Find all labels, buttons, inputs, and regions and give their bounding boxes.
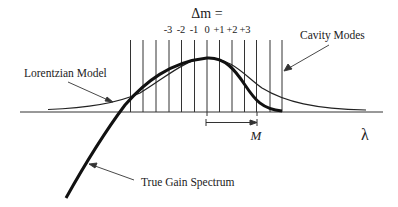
cavity-modes-label: Cavity Modes xyxy=(300,29,365,42)
svg-text:+2: +2 xyxy=(226,24,237,35)
svg-text:-1: -1 xyxy=(190,24,199,35)
svg-text:0: 0 xyxy=(204,24,209,35)
svg-text:-3: -3 xyxy=(164,24,173,35)
mode-index-labels: -3 -2 -1 0 +1 +2 +3 xyxy=(164,24,251,35)
svg-text:+1: +1 xyxy=(213,24,224,35)
cavity-modes-pointer xyxy=(284,45,329,71)
gain-spectrum-diagram: Δm = -3 -2 -1 0 +1 +2 +3 Cavity Modes Lo… xyxy=(0,0,398,207)
true-gain-pointer xyxy=(89,163,134,180)
svg-text:+3: +3 xyxy=(239,24,250,35)
delta-m-label: Δm = xyxy=(191,6,222,21)
m-span-arrow xyxy=(206,119,257,126)
axis-ticks xyxy=(207,112,257,116)
true-gain-spectrum-label: True Gain Spectrum xyxy=(141,176,235,189)
lorentzian-pointer xyxy=(68,82,113,102)
svg-text:-2: -2 xyxy=(177,24,186,35)
m-span-label: M xyxy=(250,128,263,143)
lorentzian-model-label: Lorentzian Model xyxy=(24,67,107,79)
wavelength-label: λ xyxy=(361,126,369,143)
